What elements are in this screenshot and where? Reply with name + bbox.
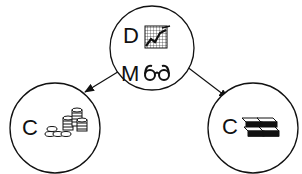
cash-bundles-icon [242, 118, 279, 136]
node-top: D M [110, 6, 194, 90]
edge-top-to-left [85, 70, 121, 92]
diagram-canvas: D M C [0, 0, 302, 174]
edge-top-to-right [186, 66, 228, 98]
node-top-label-m: M [121, 61, 139, 86]
node-left: C [10, 83, 100, 173]
node-right: C [208, 83, 298, 173]
chart-grid-icon [145, 26, 170, 48]
node-top-label-d: D [123, 23, 139, 48]
node-right-label-c: C [222, 114, 238, 139]
node-left-label-c: C [22, 115, 38, 140]
